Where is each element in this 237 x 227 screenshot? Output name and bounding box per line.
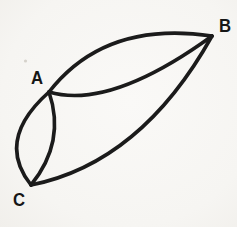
figure-canvas: A B C	[0, 0, 237, 227]
geometry-figure-svg	[0, 0, 237, 227]
vertex-label-a: A	[31, 68, 43, 87]
arc-ac-left	[17, 92, 49, 185]
vertex-label-c: C	[13, 190, 25, 209]
arc-cb-outer	[31, 36, 212, 185]
scan-speck	[24, 59, 27, 62]
vertex-label-b: B	[219, 16, 231, 35]
